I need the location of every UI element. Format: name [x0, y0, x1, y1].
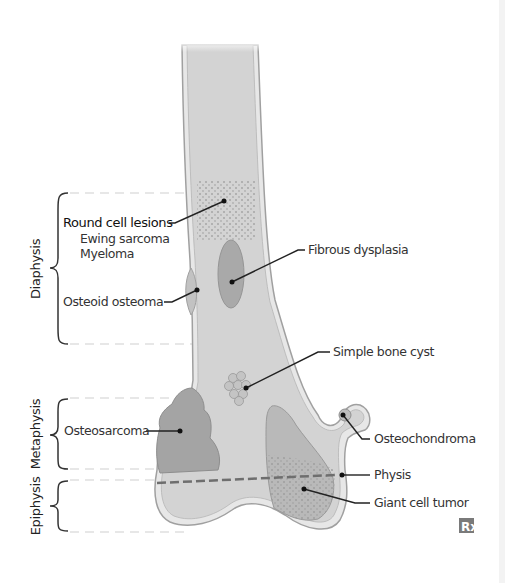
bone-tumor-diagram: Diaphysis Metaphysis Epiphysis Round cel… — [0, 0, 505, 583]
label-osteosarcoma: Osteosarcoma — [64, 423, 149, 438]
round-cell-lesion-area — [197, 180, 255, 240]
label-round-cell-lesions: Round cell lesions — [63, 215, 173, 230]
label-myeloma: Myeloma — [80, 246, 134, 261]
region-label-diaphysis: Diaphysis — [28, 238, 43, 299]
epiphysis-brace — [50, 481, 68, 531]
label-simple-bone-cyst: Simple bone cyst — [333, 344, 435, 359]
label-osteochondroma: Osteochondroma — [374, 431, 476, 446]
label-giant-cell-tumor: Giant cell tumor — [374, 495, 470, 510]
fibrous-dysplasia-lesion — [218, 240, 244, 308]
rx-icon: Rx — [459, 518, 478, 534]
label-fibrous-dysplasia: Fibrous dysplasia — [308, 242, 408, 257]
region-label-metaphysis: Metaphysis — [28, 398, 43, 469]
region-label-epiphysis: Epiphysis — [28, 476, 43, 535]
label-ewing-sarcoma: Ewing sarcoma — [80, 231, 170, 246]
region-braces — [50, 193, 68, 531]
femur-illustration — [155, 40, 370, 529]
right-edge-strip — [499, 0, 505, 583]
label-osteoid-osteoma: Osteoid osteoma — [63, 294, 163, 309]
svg-text:Rx: Rx — [461, 520, 478, 534]
label-physis: Physis — [374, 467, 411, 482]
